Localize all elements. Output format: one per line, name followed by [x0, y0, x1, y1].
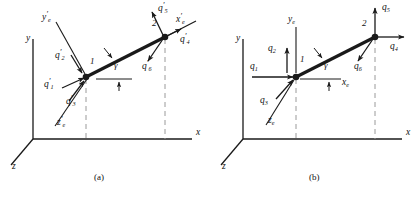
- gamma-arrow-upper-b: [314, 48, 322, 58]
- panel-b-local-axes: [266, 27, 341, 125]
- arrow-q1-prime: [62, 78, 84, 88]
- node-1-label-a: 1: [90, 56, 95, 66]
- force-label-q1: q1: [250, 62, 258, 72]
- diagram-canvas: [0, 0, 417, 199]
- arrow-q4-prime: [155, 29, 181, 42]
- local-x-axis-label-b: xe: [342, 78, 349, 88]
- member-element-b: [296, 37, 375, 77]
- global-z-axis-label-a: z: [12, 162, 16, 172]
- local-x-axis-label-a: x′e: [176, 15, 185, 25]
- force-label-q3-prime: q′3: [66, 97, 76, 107]
- panel-a-force-arrows: [62, 12, 181, 101]
- global-y-axis-label-b: y: [236, 34, 240, 44]
- node-2-label-b: 2: [362, 18, 367, 28]
- node-1-dot-a: [83, 74, 90, 81]
- force-label-q4-prime: q′4: [180, 35, 190, 45]
- force-label-q6-prime: q′6: [142, 62, 152, 72]
- global-x-axis-label-a: x: [196, 128, 200, 138]
- local-z-axis-label-a: z′e: [57, 118, 65, 128]
- panel-b-caption: (b): [309, 172, 320, 182]
- gamma-arrow-upper-a: [104, 48, 112, 58]
- local-y-axis-label-b: ye: [288, 15, 295, 25]
- local-z-axis-label-b: ze: [268, 116, 274, 126]
- force-label-q2: q2: [268, 44, 276, 54]
- force-label-q4: q4: [390, 42, 398, 52]
- gamma-angle-label-a: γ: [114, 60, 118, 70]
- global-x-axis-label-b: x: [406, 128, 410, 138]
- panel-a-caption: (a): [94, 172, 104, 182]
- force-label-q6: q6: [354, 62, 362, 72]
- global-y-axis-label-a: y: [26, 34, 30, 44]
- gamma-angle-label-b: γ: [324, 60, 328, 70]
- node-1-label-b: 1: [300, 54, 305, 64]
- local-y-axis-label-a: y′e: [42, 13, 51, 23]
- force-label-q5: q5: [382, 3, 390, 13]
- node-1-dot-b: [293, 74, 300, 81]
- force-label-q5-prime: q′5: [158, 4, 168, 14]
- panel-a-local-axes: [55, 22, 87, 126]
- force-label-q1-prime: q′1: [44, 80, 54, 90]
- figure-container: y x z x′e y′e z′e 1 2 γ q′1 q′2 q′3 q′4 …: [0, 0, 417, 199]
- global-z-axis-label-b: z: [222, 162, 226, 172]
- force-label-q2-prime: q′2: [55, 51, 65, 61]
- panel-b-member: [293, 34, 379, 81]
- force-label-q3: q3: [260, 96, 268, 106]
- member-element-a: [86, 37, 165, 77]
- node-2-label-a: 2: [152, 18, 157, 28]
